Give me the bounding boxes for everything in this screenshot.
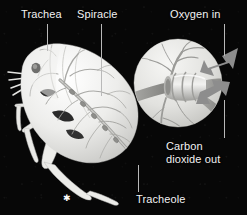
label-spiracle: Spiracle bbox=[77, 8, 118, 21]
magnified-trachea-inset bbox=[134, 39, 238, 145]
leader-line-spiracle bbox=[101, 24, 102, 96]
label-trachea: Trachea bbox=[21, 8, 62, 21]
leader-line-carbon-dioxide-out bbox=[224, 100, 225, 138]
label-tracheole: Tracheole bbox=[136, 193, 185, 206]
leader-line-oxygen-in bbox=[224, 24, 225, 56]
respiratory-system-figure: Trachea Spiracle Oxygen in Carbon dioxid… bbox=[0, 0, 247, 215]
insect-illustration bbox=[8, 42, 138, 205]
leader-line-trachea bbox=[47, 24, 48, 51]
label-carbon-dioxide-out-line2: dioxide out bbox=[166, 153, 220, 166]
leader-line-tracheole bbox=[138, 165, 139, 192]
scale-asterisk-marker: ✱ bbox=[63, 194, 71, 203]
diagram-artwork bbox=[0, 0, 247, 215]
label-carbon-dioxide-out-line1: Carbon bbox=[166, 140, 203, 153]
label-oxygen-in: Oxygen in bbox=[170, 8, 220, 21]
